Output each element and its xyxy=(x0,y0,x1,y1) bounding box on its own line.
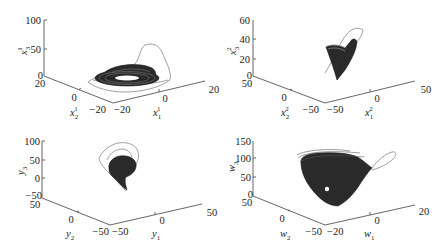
z-tick: 100 xyxy=(24,136,40,147)
x-tick: 0 xyxy=(374,215,379,226)
plot-y-attractor: 100 50 0 −50 50 0 −50 −50 0 50 y2 y1 y3 xyxy=(15,136,217,242)
y-tick: −50 xyxy=(306,226,322,237)
plot-w-attractor: 150 100 50 0 50 0 −50 −20 0 20 w2 w1 w3 xyxy=(226,136,429,242)
z-tick: 50 xyxy=(241,172,252,183)
y-tick: −20 xyxy=(90,104,106,115)
x-tick: −50 xyxy=(327,104,343,115)
x-axis xyxy=(110,204,202,225)
trajectory xyxy=(99,143,138,191)
y-axis-label: y2 xyxy=(65,228,75,242)
y-tick: 20 xyxy=(35,78,46,89)
z-axis-label: w3 xyxy=(226,161,240,172)
y-tick: 0 xyxy=(71,92,76,103)
x-tick: 0 xyxy=(159,215,164,226)
y-axis-label: x22 xyxy=(280,105,290,121)
trajectory xyxy=(325,28,363,80)
y-tick: 50 xyxy=(242,197,253,208)
x-tick: 20 xyxy=(209,84,220,95)
z-tick: 50 xyxy=(31,44,42,55)
z-tick: 60 xyxy=(240,15,251,26)
y-axis-label: w2 xyxy=(280,228,291,242)
x-tick: 50 xyxy=(421,84,432,95)
plot-x2-attractor: 60 40 20 0 50 0 −50 −50 0 50 x22 x12 x32 xyxy=(225,15,431,121)
z-axis-label: y3 xyxy=(15,166,29,176)
z-tick: 50 xyxy=(30,155,41,166)
x-axis-label: x11 xyxy=(152,105,162,121)
y-tick: 0 xyxy=(68,214,73,225)
equilibrium-point xyxy=(325,187,329,191)
x-tick: 0 xyxy=(374,93,379,104)
y-axis-label: x21 xyxy=(69,105,79,121)
x-tick: −50 xyxy=(112,226,128,237)
x-tick: −20 xyxy=(327,226,343,237)
y-tick: −50 xyxy=(93,226,109,237)
z-tick: 0 xyxy=(35,173,40,184)
z-tick: 20 xyxy=(240,54,251,65)
x-tick: −20 xyxy=(114,104,130,115)
x-axis-label: y1 xyxy=(151,228,161,242)
y-tick: −50 xyxy=(303,104,319,115)
x-axis-label: x12 xyxy=(364,105,374,121)
x-axis-label: w1 xyxy=(364,228,375,242)
x-tick: 20 xyxy=(419,206,430,217)
y-axis xyxy=(42,198,110,225)
x-tick: 0 xyxy=(162,93,167,104)
y-tick: 50 xyxy=(242,78,253,89)
figure-canvas: 100 50 0 20 0 −20 −20 0 20 x21 x11 x31 xyxy=(0,0,441,250)
plot-x1-attractor: 100 50 0 20 0 −20 −20 0 20 x21 x11 x31 xyxy=(16,15,219,121)
trajectory xyxy=(297,150,396,206)
y-tick: 50 xyxy=(30,199,41,210)
x-tick: 50 xyxy=(207,207,218,218)
z-tick: 100 xyxy=(25,15,41,26)
z-tick: 150 xyxy=(235,136,251,147)
y-tick: 0 xyxy=(281,92,286,103)
trajectory xyxy=(88,44,170,92)
y-tick: 0 xyxy=(279,213,284,224)
z-tick: 40 xyxy=(240,34,251,45)
y-axis xyxy=(253,76,325,103)
